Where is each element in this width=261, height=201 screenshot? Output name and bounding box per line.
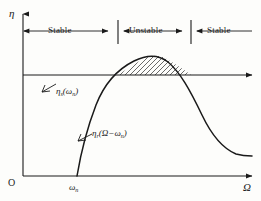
x-axis-label: Ω [243, 182, 251, 193]
region-label-stable-right: Stable [207, 26, 231, 35]
region-label-unstable: Unstable [129, 26, 163, 35]
omega-n-subscript: n [75, 187, 78, 193]
eta-r-annotation: ηr(Ω−ωn) [92, 129, 127, 139]
response-curve [77, 56, 252, 176]
eta-s-annotation: ηs(ωn) [56, 87, 78, 97]
eta-s-arg-close: ) [75, 86, 78, 96]
region-label-stable-left: Stable [48, 26, 72, 35]
x-tick-label-omega-n: ωn [69, 183, 78, 193]
eta-r-arg-open: (Ω−ω [99, 128, 121, 138]
eta-r-arg-close: ) [124, 128, 127, 138]
origin-label: O [8, 178, 15, 188]
eta-s-arg-open: (ω [63, 86, 72, 96]
unstable-hatch-area [100, 50, 225, 90]
y-axis-label: η [9, 8, 14, 19]
stability-diagram-figure: η Ω O ωn Stable Unstable Stable ηs(ωn) η… [0, 0, 261, 201]
